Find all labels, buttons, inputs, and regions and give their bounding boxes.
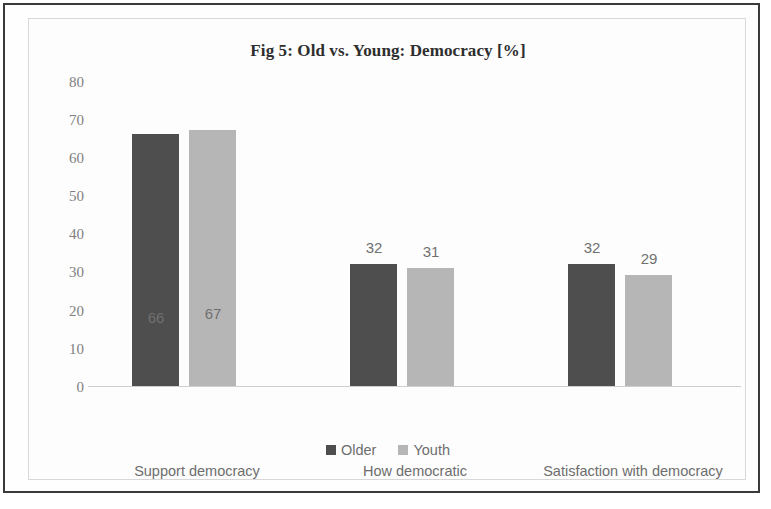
bar-value-older-support-democracy: 66	[126, 310, 186, 325]
category-label-support-democracy: Support democracy	[88, 463, 306, 479]
bar-value-youth-how-democratic: 31	[401, 244, 461, 259]
y-axis-tick-0: 0	[38, 380, 84, 395]
category-label-how-democratic: How democratic	[306, 463, 524, 479]
bar-group-support-democracy: 66 67 Support democracy	[88, 81, 306, 386]
legend-item-older[interactable]: Older	[326, 443, 376, 458]
bar-group-satisfaction-with-democracy: 32 29 Satisfaction with democracy	[524, 81, 742, 386]
bar-older-satisfaction-with-democracy[interactable]	[568, 264, 615, 386]
bar-youth-satisfaction-with-democracy[interactable]	[625, 275, 672, 386]
y-axis-tick-50: 50	[38, 189, 84, 204]
chart-title: Fig 5: Old vs. Young: Democracy [%]	[29, 41, 747, 61]
y-axis-tick-80: 80	[38, 75, 84, 90]
bar-group-how-democratic: 32 31 How democratic	[306, 81, 524, 386]
bar-value-older-how-democratic: 32	[344, 240, 404, 255]
chart-container: Fig 5: Old vs. Young: Democracy [%] 80 7…	[28, 18, 746, 480]
y-axis-tick-20: 20	[38, 304, 84, 319]
bar-value-youth-support-democracy: 67	[183, 306, 243, 321]
legend-item-youth[interactable]: Youth	[398, 443, 450, 458]
bar-youth-how-democratic[interactable]	[407, 268, 454, 386]
bar-older-support-democracy[interactable]	[132, 134, 179, 386]
y-axis-tick-40: 40	[38, 227, 84, 242]
legend-label-youth: Youth	[413, 443, 450, 458]
y-axis-tick-60: 60	[38, 151, 84, 166]
y-axis-tick-30: 30	[38, 265, 84, 280]
bar-group-bars: 32 31	[306, 81, 524, 386]
bar-value-older-satisfaction-with-democracy: 32	[562, 240, 622, 255]
category-label-satisfaction-with-democracy: Satisfaction with democracy	[518, 463, 748, 479]
bar-value-youth-satisfaction-with-democracy: 29	[619, 251, 679, 266]
y-axis: 80 70 60 50 40 30 20 10 0	[29, 19, 84, 481]
bar-group-bars: 32 29	[524, 81, 742, 386]
chart-legend: Older Youth	[29, 443, 747, 458]
y-axis-tick-70: 70	[38, 113, 84, 128]
chart-page: Fig 5: Old vs. Young: Democracy [%] 80 7…	[0, 0, 771, 509]
legend-swatch-youth-icon	[398, 445, 408, 455]
x-axis-line	[88, 386, 741, 387]
bar-group-bars: 66 67	[88, 81, 306, 386]
legend-label-older: Older	[341, 443, 376, 458]
bar-youth-support-democracy[interactable]	[189, 130, 236, 386]
bar-older-how-democratic[interactable]	[350, 264, 397, 386]
y-axis-tick-10: 10	[38, 342, 84, 357]
legend-swatch-older-icon	[326, 445, 336, 455]
